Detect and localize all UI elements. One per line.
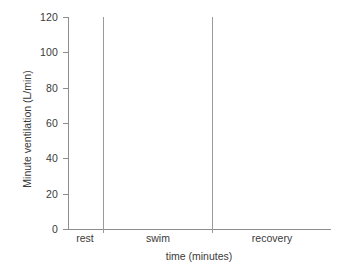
y-tick-label-0: 0 — [52, 223, 58, 235]
y-tick-0 — [63, 229, 68, 230]
y-tick-100 — [63, 52, 68, 53]
y-axis-title: Minute ventilation (L/min) — [21, 29, 33, 229]
y-tick-label-80: 80 — [46, 82, 58, 94]
y-tick-label-60: 60 — [46, 117, 58, 129]
y-tick-20 — [63, 194, 68, 195]
chart-figure: 0 20 40 60 80 100 120 rest swim recovery… — [0, 0, 350, 272]
phase-divider-1 — [103, 17, 104, 233]
x-category-label-swim: swim — [146, 232, 170, 244]
y-tick-120 — [63, 17, 68, 18]
x-axis-line — [68, 229, 331, 230]
y-tick-40 — [63, 158, 68, 159]
y-tick-label-120: 120 — [40, 11, 58, 23]
y-tick-80 — [63, 88, 68, 89]
y-tick-60 — [63, 123, 68, 124]
y-tick-label-100: 100 — [40, 46, 58, 58]
x-category-label-recovery: recovery — [252, 232, 292, 244]
x-category-label-rest: rest — [76, 232, 94, 244]
y-tick-label-20: 20 — [46, 188, 58, 200]
y-axis-line — [68, 17, 69, 230]
y-tick-label-40: 40 — [46, 152, 58, 164]
x-axis-title: time (minutes) — [166, 250, 233, 262]
phase-divider-2 — [212, 17, 213, 233]
